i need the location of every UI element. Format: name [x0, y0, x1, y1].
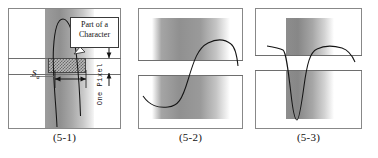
panel-5-3: [255, 8, 362, 129]
thin-stroke-profile-curve: [267, 46, 355, 120]
one-pixel-height-arrow: [107, 46, 112, 86]
caption-5-1: (5-1): [8, 131, 121, 143]
one-pixel-vertical-label: One Pixel: [96, 63, 104, 105]
edge-profile-curve: [143, 40, 238, 107]
caption-5-2: (5-2): [138, 131, 243, 143]
panel-5-2-curve-layer: [138, 8, 243, 129]
width-label-s: Sa: [32, 68, 40, 80]
figure-container: Part of a Character Sa One Pixel (5-1) (…: [0, 0, 378, 158]
panel-5-3-curve-layer: [255, 8, 362, 129]
panel-5-2: [138, 8, 243, 129]
caption-5-3: (5-3): [255, 131, 362, 143]
callout-line-2: Character: [73, 30, 116, 40]
panel-5-1: Part of a Character Sa One Pixel: [8, 8, 121, 129]
callout-part-of-character: Part of a Character: [70, 17, 119, 48]
callout-line-1: Part of a: [73, 20, 116, 30]
width-label-s-sub: a: [37, 74, 40, 80]
